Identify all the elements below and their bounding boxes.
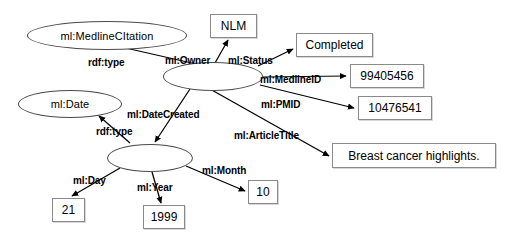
node-citation-blank[interactable] bbox=[163, 62, 263, 91]
node-medline-citation-label: ml:MedlineCItation bbox=[61, 30, 154, 42]
node-pmid-label: 10476541 bbox=[368, 101, 421, 115]
node-pmid[interactable]: 10476541 bbox=[358, 96, 432, 120]
edge-label-article-title: ml:ArticleTitle bbox=[234, 130, 299, 141]
edge-label-pmid: ml:PMID bbox=[261, 99, 300, 110]
node-article-title-label: Breast cancer highlights. bbox=[348, 149, 479, 163]
node-completed-label: Completed bbox=[305, 38, 363, 52]
edge-label-year: ml:Year bbox=[137, 182, 172, 193]
edge-label-rdf-type-date: rdf:type bbox=[96, 126, 132, 137]
node-completed[interactable]: Completed bbox=[296, 33, 373, 57]
edge-owner bbox=[215, 40, 228, 63]
node-date-class-label: ml:Date bbox=[51, 98, 90, 110]
node-article-title[interactable]: Breast cancer highlights. bbox=[332, 143, 496, 168]
node-nlm-label: NLM bbox=[221, 19, 246, 33]
node-day[interactable]: 21 bbox=[52, 198, 85, 222]
node-date-class[interactable]: ml:Date bbox=[18, 90, 122, 118]
node-month[interactable]: 10 bbox=[248, 180, 278, 204]
node-medline-citation[interactable]: ml:MedlineCItation bbox=[27, 21, 187, 50]
node-year[interactable]: 1999 bbox=[143, 205, 185, 229]
node-medline-id[interactable]: 99405456 bbox=[350, 64, 424, 88]
node-day-label: 21 bbox=[62, 203, 75, 217]
edge-label-rdf-type-citation: rdf:type bbox=[88, 57, 124, 68]
node-medline-id-label: 99405456 bbox=[360, 69, 413, 83]
edge-label-medline-id: ml:MedlineID bbox=[260, 74, 321, 85]
edge-label-month: ml:Month bbox=[202, 165, 246, 176]
edge-label-day: ml:Day bbox=[73, 175, 106, 186]
edge-label-date-created: ml:DateCreated bbox=[127, 109, 200, 120]
node-date-blank[interactable] bbox=[107, 144, 193, 172]
node-nlm[interactable]: NLM bbox=[210, 14, 257, 38]
edge-label-owner: ml:Owner bbox=[165, 55, 210, 66]
rdf-diagram-canvas: ml:MedlineCItation ml:Date NLM Completed… bbox=[0, 0, 508, 235]
edge-label-status: ml:Status bbox=[228, 55, 273, 66]
node-year-label: 1999 bbox=[151, 210, 178, 224]
node-month-label: 10 bbox=[256, 185, 269, 199]
